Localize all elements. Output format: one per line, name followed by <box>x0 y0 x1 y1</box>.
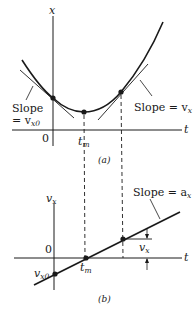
panel-b: vx t 0 vx0 tm vx Sl <box>14 186 192 304</box>
slope-ax-label: Slope = ax <box>133 186 192 200</box>
origin-label-b: 0 <box>45 243 52 256</box>
right-slope-label: Slope = vx <box>134 101 193 115</box>
t-axis-label-b: t <box>184 251 189 264</box>
origin-label: 0 <box>42 132 49 145</box>
dashed-tm <box>84 115 85 258</box>
vx-axis-label: vx <box>46 192 57 206</box>
vx-arrowhead-bottom <box>145 258 149 263</box>
t-axis-label: t <box>184 123 189 136</box>
slope-ax-leader <box>150 199 160 219</box>
position-curve <box>22 22 163 112</box>
caption-a: (a) <box>98 155 111 165</box>
vx-marker-label: vx <box>139 241 150 255</box>
left-slope-label-line2: = vx0 <box>12 114 40 128</box>
x-axis-label: x <box>49 4 56 17</box>
caption-b: (b) <box>98 294 111 304</box>
right-slope-leader <box>140 80 152 96</box>
point-t <box>118 89 123 94</box>
vx-arrowhead-top <box>145 234 149 239</box>
left-slope-leader <box>26 86 33 100</box>
tm-label-b: tm <box>80 261 92 275</box>
point-tm-b <box>83 255 88 260</box>
kinematics-figure: x t 0 tm Slope = vx0 Slope = vx <box>0 0 195 314</box>
panel-a: x t 0 tm Slope = vx0 Slope = vx <box>12 4 193 165</box>
point-vx0 <box>52 271 57 276</box>
point-tm <box>81 109 86 114</box>
vx0-label: vx0 <box>34 267 49 281</box>
point-t0 <box>50 95 55 100</box>
dashed-t <box>121 95 123 258</box>
